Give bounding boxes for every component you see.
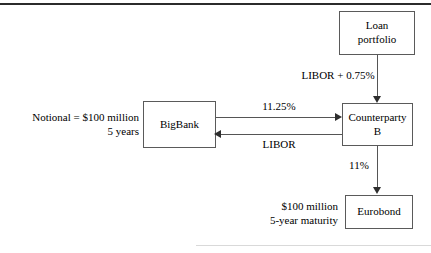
edge-label-loan-rate: LIBOR + 0.75% <box>288 68 388 82</box>
diagram-canvas: Loan portfolio BigBank Counterparty B Eu… <box>0 0 431 253</box>
connector-counterparty-to-bigbank <box>220 134 342 135</box>
arrowhead-right-icon <box>335 113 342 121</box>
edge-label-fixed-rate: 11.25% <box>240 99 318 113</box>
node-bigbank[interactable]: BigBank <box>143 101 216 148</box>
edge-label-floating-rate: LIBOR <box>240 137 318 151</box>
annotation-eurobond-terms: $100 million 5-year maturity <box>240 199 338 228</box>
connector-bigbank-to-counterparty <box>216 117 336 118</box>
annotation-notional: Notional = $100 million 5 years <box>14 110 139 139</box>
connector-counterparty-to-eurobond <box>377 146 378 187</box>
bottom-divider-rule <box>196 245 431 246</box>
arrowhead-down-icon <box>373 96 381 103</box>
arrowhead-down-icon <box>373 187 381 194</box>
top-divider-rule <box>0 3 431 5</box>
node-eurobond[interactable]: Eurobond <box>345 195 413 229</box>
edge-label-eurobond-rate: 11% <box>344 158 374 172</box>
node-counterparty-b[interactable]: Counterparty B <box>342 103 413 146</box>
node-loan-portfolio[interactable]: Loan portfolio <box>339 11 415 55</box>
arrowhead-left-icon <box>214 130 221 138</box>
